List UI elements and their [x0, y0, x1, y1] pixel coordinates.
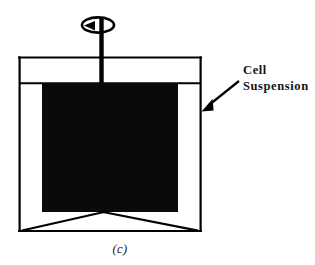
cell-suspension-label-line2: Suspension — [243, 78, 309, 94]
cell-suspension-label: Cell Suspension — [243, 62, 309, 94]
support-leg-right — [103, 212, 198, 231]
rotation-indicator-group — [82, 17, 114, 32]
support-leg-left — [22, 212, 104, 231]
pointer-arrow-shaft — [209, 81, 239, 105]
panel-caption: (c) — [0, 242, 240, 257]
support-legs-group — [22, 212, 198, 231]
bioreactor-diagram — [0, 0, 315, 265]
cell-suspension-pointer-arrow — [202, 81, 240, 112]
pointer-arrowhead-icon — [202, 99, 214, 112]
cell-suspension-fill — [42, 83, 178, 212]
cell-suspension-label-line1: Cell — [243, 62, 309, 78]
figure-bioreactor-panel-c: Cell Suspension (c) — [0, 0, 315, 265]
